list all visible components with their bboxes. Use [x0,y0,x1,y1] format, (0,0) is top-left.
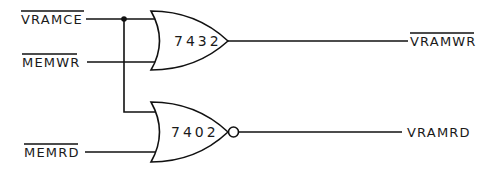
input-label-memrd: MEMRD [24,145,80,160]
junction-dot [121,16,127,22]
input-label-vramce: VRAMCE [21,12,83,27]
inversion-bubble-icon [229,127,239,137]
schematic-canvas: VRAMCE MEMWR MEMRD 7432 7402 VRAMWR VRAM… [0,0,495,176]
input-label-memwr: MEMWR [22,55,81,70]
output-label-vramrd: VRAMRD [407,125,471,140]
output-label-vramwr: VRAMWR [410,34,477,49]
gate-part-7402: 7402 [171,124,219,140]
gate-part-7432: 7432 [174,33,222,49]
